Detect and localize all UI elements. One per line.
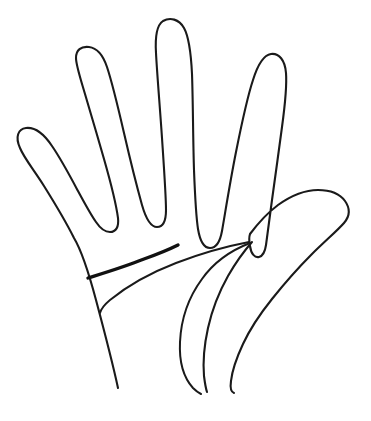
paper-background [0,0,371,421]
drawing-canvas: Hand Outline Line Drawing open human han… [0,0,371,421]
hand-drawing: Hand Outline Line Drawing [0,0,371,421]
